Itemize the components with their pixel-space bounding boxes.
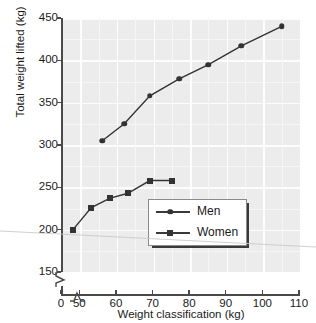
data-point-women[interactable] [107,195,113,201]
legend-label: Men [197,205,220,217]
x-tick-mark [152,290,153,294]
y-tick-label: 450 [39,12,58,24]
y-tick-label: 200 [39,224,58,236]
y-tick-mark [57,102,61,103]
legend-line [156,211,190,213]
x-tick-mark [60,290,61,294]
y-tick-label: 250 [39,182,58,194]
x-tick-mark [115,290,116,294]
legend-item-women[interactable]: Women [149,222,246,244]
x-axis-title: Weight classification (kg) [62,308,300,320]
data-point-men[interactable] [279,24,285,30]
y-tick-mark [57,144,61,145]
y-axis-break-icon [55,272,69,288]
y-tick-mark [57,187,61,188]
legend: Men Women [148,199,247,246]
legend-label: Women [197,226,238,238]
data-point-men[interactable] [147,93,153,99]
x-tick-mark [298,290,299,294]
x-tick-mark [188,290,189,294]
data-point-women[interactable] [88,205,94,211]
data-point-men[interactable] [121,121,127,127]
y-tick-label: 350 [39,97,58,109]
circle-marker-icon [167,209,173,215]
y-axis-title: Total weight lifted (kg) [14,0,26,142]
x-tick-mark [262,290,263,294]
data-point-women[interactable] [147,178,153,184]
y-tick-mark [57,60,61,61]
data-point-women[interactable] [125,190,131,196]
x-axis-break-icon [70,288,86,302]
y-tick-label: 300 [39,139,58,151]
data-point-women[interactable] [70,227,76,233]
data-point-men[interactable] [176,76,182,82]
legend-line [156,232,190,234]
square-marker-icon [167,230,173,236]
y-axis-line: 0150200250300350400450 [61,18,63,272]
series-line-men [102,26,281,140]
y-tick-mark [57,17,61,18]
legend-item-men[interactable]: Men [149,201,246,223]
data-point-men[interactable] [206,62,212,68]
data-point-women[interactable] [169,178,175,184]
data-point-men[interactable] [100,138,106,144]
data-point-men[interactable] [239,43,245,49]
x-axis-line: 05060708090100110 [61,294,300,296]
y-tick-label: 400 [39,55,58,67]
x-tick-mark [225,290,226,294]
figure: 0150200250300350400450 05060708090100110… [0,0,316,323]
y-tick-mark [57,229,61,230]
